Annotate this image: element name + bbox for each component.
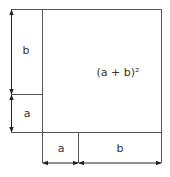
- binomial-square-diagram: b a a b (a + b)²: [0, 0, 170, 177]
- label-left-a: a: [24, 107, 31, 120]
- formula-label: (a + b)²: [97, 66, 140, 79]
- label-bottom-a: a: [58, 142, 65, 155]
- label-bottom-b: b: [117, 142, 124, 155]
- label-left-b: b: [23, 44, 30, 57]
